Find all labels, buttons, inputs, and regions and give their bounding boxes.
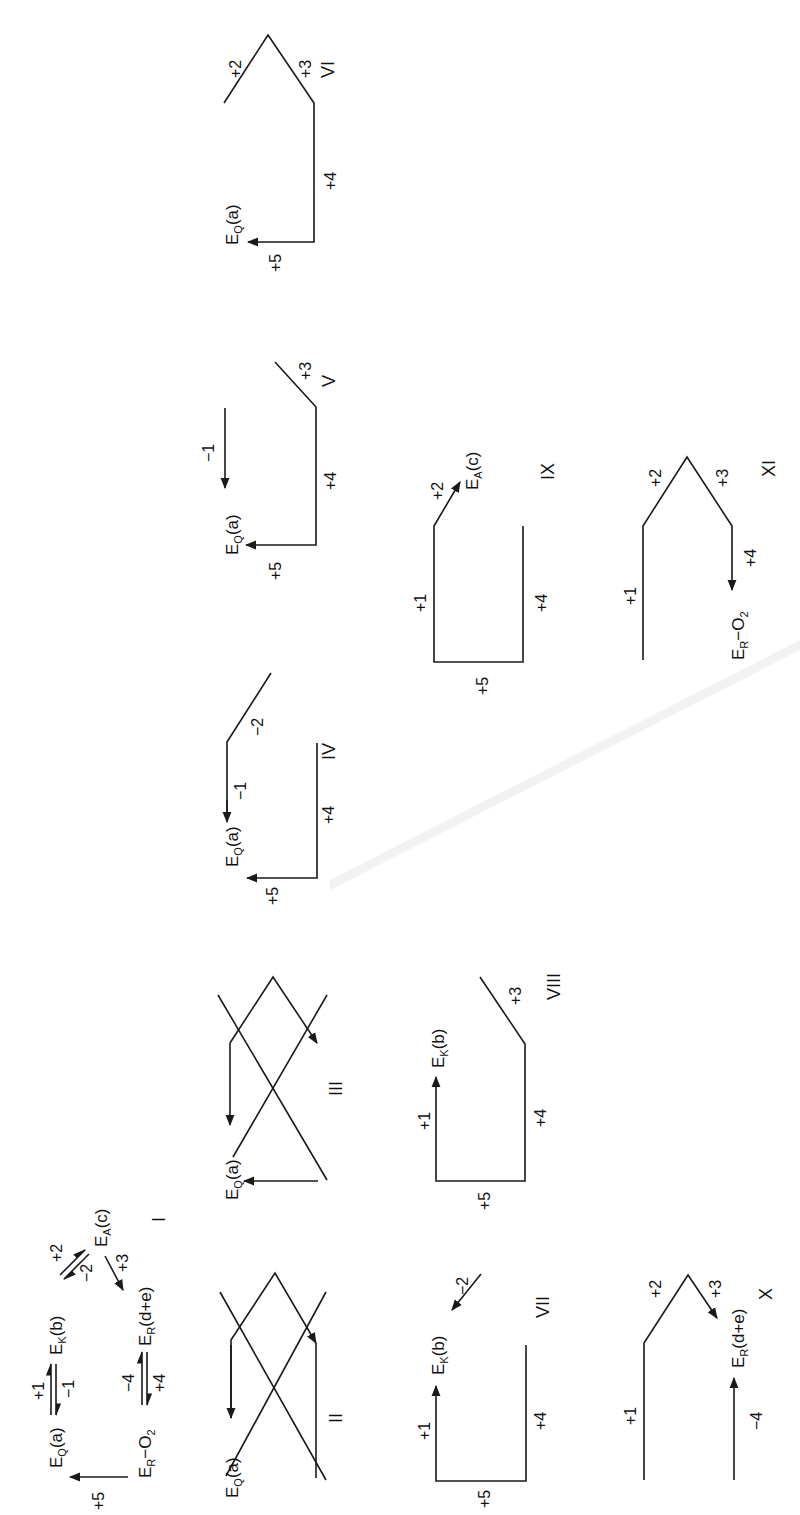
label-step: −2 bbox=[249, 718, 266, 736]
label-step: −1 bbox=[232, 782, 249, 800]
panel-label-X: X bbox=[756, 1288, 776, 1300]
label-step: +1 bbox=[622, 587, 639, 605]
label-step: +3 bbox=[507, 987, 524, 1005]
label-step-m1: −1 bbox=[60, 1380, 77, 1398]
label-step: −2 bbox=[454, 1277, 471, 1295]
panel-label-VII: VII bbox=[533, 1296, 553, 1318]
panel-label-III: III bbox=[326, 1081, 346, 1096]
label-step-m4: −4 bbox=[120, 1374, 137, 1392]
label-step: +5 bbox=[476, 1490, 493, 1508]
label-step: +4 bbox=[532, 1412, 549, 1430]
label-step-p4: +4 bbox=[151, 1374, 168, 1392]
label-EQ: EQ(a) bbox=[223, 826, 244, 867]
label-EK: EK(b) bbox=[47, 1316, 68, 1355]
panel-V: EQ(a) −1 +3 +4 +5 V bbox=[200, 362, 339, 580]
path-crossing-2 bbox=[233, 995, 327, 1157]
label-step-m2: −2 bbox=[78, 1264, 95, 1282]
label-ERO2: ER−O2 bbox=[729, 611, 750, 660]
label-step: +4 bbox=[532, 1109, 549, 1127]
label-step: +2 bbox=[227, 60, 244, 78]
label-step-p5: +5 bbox=[90, 1492, 107, 1510]
panel-I-scheme: EQ(a) +5 ER−O2 +1 −1 EK(b) +2 −2 EA(c) I… bbox=[30, 1208, 169, 1510]
path-lower bbox=[246, 362, 316, 545]
panel-IV: EQ(a) −1 −2 +4 +5 IV bbox=[223, 673, 339, 905]
panel-label-VIII: VIII bbox=[544, 973, 564, 1000]
path-lower bbox=[247, 743, 317, 878]
label-step: +1 bbox=[412, 594, 429, 612]
panel-X: ER(d+e) +1 +2 +3 −4 X bbox=[622, 1275, 776, 1480]
path-VII bbox=[436, 1345, 526, 1481]
label-step: +3 bbox=[297, 362, 314, 380]
label-step: +4 bbox=[322, 472, 339, 490]
label-EQ: EQ(a) bbox=[223, 514, 244, 555]
label-EK: EK(b) bbox=[429, 1336, 450, 1375]
label-step: +5 bbox=[267, 254, 284, 272]
label-ER: ER(d+e) bbox=[729, 1309, 750, 1368]
label-step: +5 bbox=[476, 1192, 493, 1210]
label-step-p3: +3 bbox=[114, 1254, 131, 1272]
label-step: +2 bbox=[429, 482, 446, 500]
path-branch bbox=[230, 977, 317, 1043]
label-EQ: EQ(a) bbox=[223, 1159, 244, 1200]
panel-II: EQ(a) II bbox=[220, 1273, 346, 1498]
panel-III: EQ(a) III bbox=[218, 977, 346, 1200]
label-step: +3 bbox=[714, 469, 731, 487]
label-step: +4 bbox=[742, 549, 759, 567]
label-step: +2 bbox=[647, 469, 664, 487]
label-step: +1 bbox=[622, 1407, 639, 1425]
scan-smudge bbox=[330, 640, 800, 890]
panel-VII: EK(b) +1 −2 +4 +5 VII bbox=[416, 1274, 553, 1508]
panel-label-IV: IV bbox=[319, 743, 339, 760]
panel-VI: EQ(a) +2 +3 +4 +5 VI bbox=[223, 35, 339, 272]
label-step: −4 bbox=[748, 1412, 765, 1430]
label-step-p2: +2 bbox=[48, 1244, 65, 1262]
path-X bbox=[644, 1275, 717, 1480]
path-IX bbox=[434, 482, 523, 662]
label-ER: ER(d+e) bbox=[136, 1287, 157, 1346]
panel-label-VI: VI bbox=[318, 61, 338, 78]
label-step: +1 bbox=[416, 1422, 433, 1440]
path-crossing-2 bbox=[226, 1292, 326, 1476]
label-EA: EA(c) bbox=[463, 451, 484, 490]
label-step-p1: +1 bbox=[30, 1382, 47, 1400]
panel-VIII: EK(b) +1 +3 +4 +5 VIII bbox=[416, 973, 564, 1210]
panel-label-V: V bbox=[319, 375, 339, 387]
label-step: +5 bbox=[264, 887, 281, 905]
label-step: +3 bbox=[297, 60, 314, 78]
panel-label-IX: IX bbox=[538, 463, 558, 480]
panel-label-II: II bbox=[326, 1413, 346, 1423]
label-step: +3 bbox=[707, 1280, 724, 1298]
label-step: +4 bbox=[533, 594, 550, 612]
label-step: +1 bbox=[416, 1112, 433, 1130]
label-step: +4 bbox=[320, 806, 337, 824]
label-EQ: EQ(a) bbox=[47, 1427, 68, 1468]
label-step: +5 bbox=[267, 562, 284, 580]
path-VIII bbox=[436, 977, 525, 1181]
panel-IX: EA(c) +1 +2 +4 +5 IX bbox=[412, 451, 558, 695]
label-EQ: EQ(a) bbox=[223, 204, 244, 245]
panel-label-XI: XI bbox=[759, 460, 779, 477]
label-step: −1 bbox=[200, 444, 217, 462]
panel-XI: ER−O2 +1 +2 +3 +4 XI bbox=[622, 457, 779, 660]
label-step: +2 bbox=[647, 1280, 664, 1298]
label-EK: EK(b) bbox=[429, 1029, 450, 1068]
label-step: +4 bbox=[322, 172, 339, 190]
catalytic-cycle-diagram: EQ(a) +5 ER−O2 +1 −1 EK(b) +2 −2 EA(c) I… bbox=[0, 0, 800, 1515]
path-branch-a bbox=[231, 1273, 316, 1418]
panel-label-I: I bbox=[149, 1217, 169, 1222]
label-EA: EA(c) bbox=[92, 1208, 113, 1247]
label-EQ: EQ(a) bbox=[223, 1457, 244, 1498]
label-step: +5 bbox=[474, 677, 491, 695]
label-ERO2: ER−O2 bbox=[136, 1429, 157, 1478]
